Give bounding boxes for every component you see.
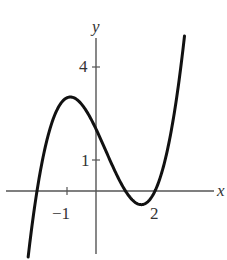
function-graph: [0, 0, 227, 260]
y-tick-label-4: 4: [79, 58, 88, 75]
y-axis-label: y: [92, 18, 100, 35]
x-axis-label: x: [217, 182, 225, 199]
x-tick-label-neg1: −1: [52, 205, 70, 222]
function-curve: [28, 36, 184, 257]
y-tick-label-1: 1: [81, 152, 90, 169]
x-tick-label-2: 2: [150, 205, 159, 222]
